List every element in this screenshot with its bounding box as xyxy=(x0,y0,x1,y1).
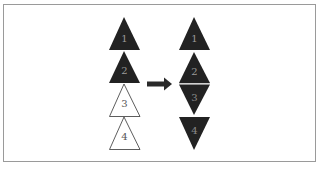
before-column: 1 2 3 4 xyxy=(109,17,140,150)
after-triangle-3: 3 xyxy=(179,85,210,116)
before-triangle-1: 1 xyxy=(109,17,140,50)
after-triangle-3-label: 3 xyxy=(191,92,197,103)
after-triangle-4-label: 4 xyxy=(191,125,197,136)
before-triangle-4: 4 xyxy=(110,117,141,150)
diagram-canvas: 1 2 3 4 1 2 3 xyxy=(0,0,322,169)
before-triangle-3-label: 3 xyxy=(121,98,127,109)
before-triangle-2: 2 xyxy=(109,51,140,83)
before-triangle-3: 3 xyxy=(110,84,141,117)
after-triangle-1: 1 xyxy=(179,17,210,50)
right-arrow-icon xyxy=(147,78,172,91)
before-triangle-1-label: 1 xyxy=(121,33,127,44)
before-triangle-2-label: 2 xyxy=(121,65,127,76)
after-triangle-4: 4 xyxy=(179,117,210,150)
before-triangle-4-label: 4 xyxy=(121,131,127,142)
after-column: 1 2 3 4 xyxy=(179,17,210,150)
after-triangle-2: 2 xyxy=(179,52,210,83)
after-triangle-1-label: 1 xyxy=(191,33,197,44)
after-triangle-2-label: 2 xyxy=(191,66,197,77)
